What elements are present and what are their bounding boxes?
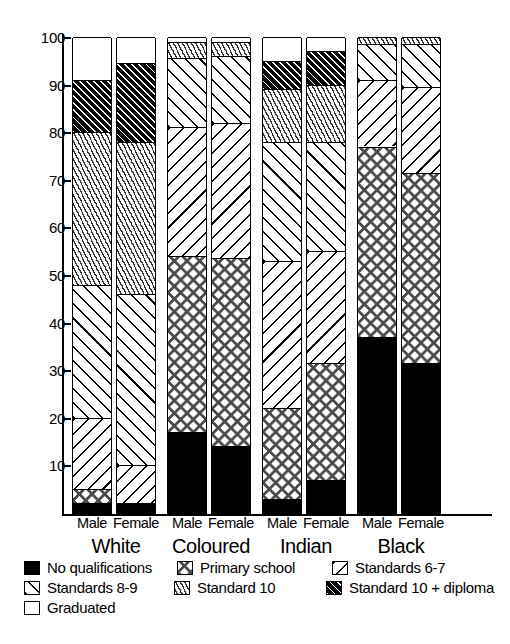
segment-primary-school [73, 489, 111, 503]
bar-black-female [401, 38, 441, 514]
legend-row: Standards 8-9Standard 10Standard 10 + di… [24, 580, 494, 600]
segment-no-qualifications [358, 337, 396, 513]
segment-primary-school [358, 147, 396, 337]
x-label-black-female: Female [393, 516, 449, 531]
bar-coloured-male [167, 38, 207, 514]
segment-standards-6-7 [263, 261, 301, 409]
legend-swatch-graduated-icon [24, 601, 40, 615]
segment-primary-school [263, 408, 301, 498]
segment-primary-school [212, 258, 250, 446]
x-label-indian-female: Female [298, 516, 354, 531]
legend-item-standards-8-9[interactable]: Standards 8-9 [24, 580, 174, 596]
segment-standards-8-9 [402, 44, 440, 87]
legend-swatch-standards-8-9-icon [24, 581, 40, 595]
chart-legend: No qualificationsPrimary schoolStandards… [24, 560, 494, 620]
segment-standards-6-7 [73, 418, 111, 489]
segment-standards-8-9 [263, 142, 301, 261]
legend-swatch-no-qualifications-icon [24, 561, 40, 575]
segment-standards-6-7 [402, 87, 440, 173]
bar-white-male [72, 38, 112, 514]
segment-standards-6-7 [117, 465, 155, 503]
segment-graduated [117, 37, 155, 63]
x-group-label-black: Black [341, 536, 461, 557]
segment-no-qualifications [402, 363, 440, 513]
segment-standard-10 [358, 37, 396, 44]
bar-white-female [116, 38, 156, 514]
legend-item-standards-6-7[interactable]: Standards 6-7 [332, 560, 445, 576]
segment-standard-10 [117, 142, 155, 294]
y-tick-label-10: 10 [27, 458, 65, 473]
legend-label-primary-school: Primary school [200, 560, 295, 576]
chart-plot-area: 100908070605040302010 MaleFemaleWhiteMal… [0, 0, 510, 520]
legend-item-standard-10[interactable]: Standard 10 [174, 580, 326, 596]
segment-standards-6-7 [307, 251, 345, 363]
x-label-coloured-female: Female [203, 516, 259, 531]
bar-indian-female [306, 38, 346, 514]
y-tick-label-50: 50 [27, 268, 65, 283]
segment-standard-10-diploma [117, 63, 155, 142]
legend-label-standards-8-9: Standards 8-9 [47, 580, 137, 596]
segment-standard-10 [307, 85, 345, 142]
bar-indian-male [262, 38, 302, 514]
segment-no-qualifications [73, 503, 111, 513]
segment-standards-8-9 [307, 142, 345, 251]
legend-label-standards-6-7: Standards 6-7 [355, 560, 445, 576]
y-tick-label-70: 70 [27, 173, 65, 188]
legend-row: No qualificationsPrimary schoolStandards… [24, 560, 494, 580]
segment-no-qualifications [263, 499, 301, 513]
segment-standard-10 [168, 42, 206, 59]
x-label-white-female: Female [108, 516, 164, 531]
legend-swatch-primary-school-icon [177, 561, 193, 575]
y-tick-label-90: 90 [27, 78, 65, 93]
segment-standards-8-9 [117, 294, 155, 465]
segment-standard-10 [402, 37, 440, 44]
legend-label-graduated: Graduated [47, 600, 115, 616]
segment-primary-school [168, 256, 206, 432]
segment-standards-6-7 [212, 123, 250, 259]
segment-primary-school [402, 173, 440, 363]
segment-graduated [307, 37, 345, 51]
legend-label-standard-10: Standard 10 [197, 580, 275, 596]
legend-swatch-standards-6-7-icon [332, 561, 348, 575]
bar-coloured-female [211, 38, 251, 514]
bar-black-male [357, 38, 397, 514]
y-tick-label-30: 30 [27, 363, 65, 378]
segment-standards-8-9 [168, 58, 206, 127]
segment-no-qualifications [168, 432, 206, 513]
segment-graduated [263, 37, 301, 61]
y-tick-label-40: 40 [27, 316, 65, 331]
legend-item-graduated[interactable]: Graduated [24, 600, 177, 616]
segment-standards-8-9 [212, 56, 250, 123]
legend-item-standard-10-diploma[interactable]: Standard 10 + diploma [326, 580, 494, 596]
legend-swatch-standard-10-diploma-icon [326, 581, 342, 595]
legend-row: Graduated [24, 600, 494, 620]
y-tick-label-20: 20 [27, 411, 65, 426]
segment-graduated [73, 37, 111, 80]
y-tick-label-100: 100 [27, 30, 65, 45]
segment-standard-10 [212, 42, 250, 56]
segment-standard-10-diploma [73, 80, 111, 132]
segment-standard-10 [263, 89, 301, 141]
legend-item-primary-school[interactable]: Primary school [177, 560, 332, 576]
legend-swatch-standard-10-icon [174, 581, 190, 595]
segment-graduated [212, 37, 250, 42]
segment-standards-6-7 [358, 80, 396, 147]
y-tick-label-80: 80 [27, 125, 65, 140]
segment-standards-8-9 [358, 44, 396, 80]
y-tick-label-60: 60 [27, 220, 65, 235]
legend-label-standard-10-diploma: Standard 10 + diploma [349, 580, 494, 596]
segment-no-qualifications [117, 503, 155, 513]
legend-label-no-qualifications: No qualifications [47, 560, 152, 576]
segment-standard-10-diploma [263, 61, 301, 90]
segment-no-qualifications [307, 480, 345, 513]
segment-standards-8-9 [73, 285, 111, 418]
segment-standard-10 [73, 132, 111, 284]
segment-graduated [168, 37, 206, 42]
legend-item-no-qualifications[interactable]: No qualifications [24, 560, 177, 576]
segment-standard-10-diploma [307, 51, 345, 84]
segment-primary-school [307, 363, 345, 480]
segment-no-qualifications [212, 446, 250, 513]
segment-standards-6-7 [168, 127, 206, 256]
